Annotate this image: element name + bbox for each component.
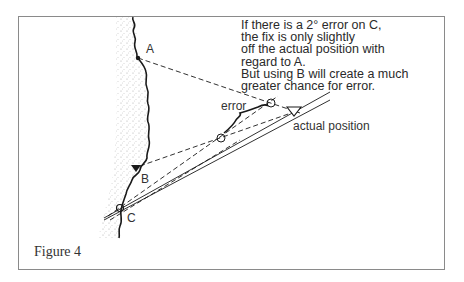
- note-line: greater chance for error.: [241, 80, 408, 92]
- point-a-marker: [136, 56, 140, 60]
- explanation-note: If there is a 2° error on C, the fix is …: [241, 19, 408, 92]
- label-error: error: [221, 99, 246, 113]
- label-actual-position: actual position: [293, 119, 370, 133]
- figure-caption: Figure 4: [34, 244, 81, 260]
- note-line: regard to A.: [241, 56, 408, 68]
- label-point-a: A: [146, 42, 154, 56]
- fix-circle-b: [217, 134, 225, 142]
- note-line: off the actual position with: [241, 43, 408, 55]
- label-point-c: C: [127, 211, 136, 225]
- label-point-b: B: [141, 172, 149, 186]
